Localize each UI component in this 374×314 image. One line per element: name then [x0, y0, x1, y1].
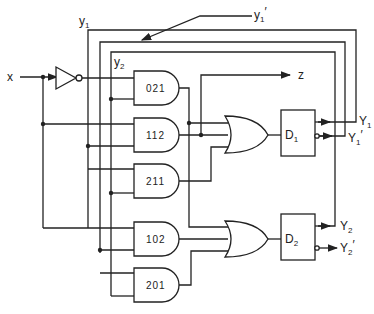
feedback-y1-wire: [88, 30, 356, 228]
and-gate-021: 021: [134, 71, 179, 105]
output-z-label: z: [298, 68, 304, 82]
and-gate-112: 112: [134, 118, 179, 152]
flip-flop-d2: D2: [281, 214, 337, 260]
input-x-wire: [20, 75, 134, 228]
or-gate-1: [225, 116, 281, 153]
and-gate-inputs: [86, 97, 134, 296]
svg-text:102: 102: [146, 234, 166, 245]
Y2-output-label: Y2: [340, 219, 353, 235]
and-gate-211: 211: [134, 164, 179, 198]
y1-label: y1: [79, 14, 90, 30]
y2-label: y2: [114, 55, 125, 71]
Y1-prime-output-label: Y1′: [348, 128, 363, 147]
Y2-prime-output-label: Y2′: [340, 238, 355, 257]
y1-prime-label: y1′: [254, 5, 267, 24]
svg-text:021: 021: [146, 83, 166, 94]
svg-text:211: 211: [146, 176, 165, 187]
input-x-label: x: [7, 70, 13, 84]
svg-text:201: 201: [146, 280, 166, 291]
logic-circuit-diagram: 021 112 211 102 201 D1: [0, 0, 374, 314]
or-gate-2: [225, 221, 281, 257]
y1-prime-pointer: [142, 16, 252, 40]
and-gate-201: 201: [134, 268, 179, 302]
and-gate-102: 102: [134, 222, 179, 256]
flip-flop-d1: D1: [281, 110, 319, 156]
svg-text:112: 112: [146, 130, 165, 141]
